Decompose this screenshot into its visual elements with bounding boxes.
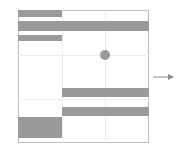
bar-3 (18, 35, 62, 41)
dot-marker (100, 50, 110, 60)
gridline-horizontal (18, 99, 149, 100)
arrow-right-icon (153, 72, 175, 82)
bar-5 (62, 107, 149, 116)
bar-2 (18, 21, 149, 31)
bar-6 (18, 117, 62, 138)
bar-1 (18, 10, 62, 17)
bar-4 (62, 88, 149, 97)
gridline-horizontal (18, 55, 149, 56)
